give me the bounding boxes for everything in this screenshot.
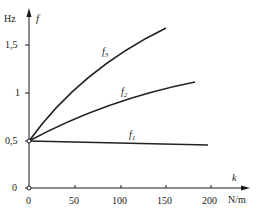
start-point-marker [27, 139, 31, 143]
y-tick-label: 0,5 [5, 136, 18, 146]
y-axis-label: f [36, 13, 39, 23]
curve-f3 [29, 28, 166, 141]
series-label-f1: f1 [129, 130, 135, 143]
y-tick-label: 0 [12, 183, 17, 193]
y-tick-label: 1,5 [5, 40, 18, 50]
y-tick-label: 1 [15, 88, 20, 98]
y-ticks [25, 45, 29, 188]
x-tick-label: 0 [26, 196, 31, 206]
x-tick-label: 100 [112, 196, 127, 206]
x-tick-label: 150 [157, 196, 172, 206]
curve-f1 [29, 141, 208, 145]
y-unit-label: Hz [4, 14, 16, 24]
origin-marker [27, 186, 31, 190]
x-tick-label: 200 [202, 196, 217, 206]
series-label-f3: f3 [102, 47, 108, 60]
y-axis-arrow-icon [27, 8, 32, 17]
series-label-f2: f2 [121, 87, 127, 100]
x-tick-label: 50 [69, 196, 79, 206]
chart-canvas [0, 0, 258, 218]
x-unit-label: N/m [228, 195, 246, 205]
x-axis-arrow-icon [241, 186, 250, 191]
x-axis-label: k [232, 173, 236, 183]
